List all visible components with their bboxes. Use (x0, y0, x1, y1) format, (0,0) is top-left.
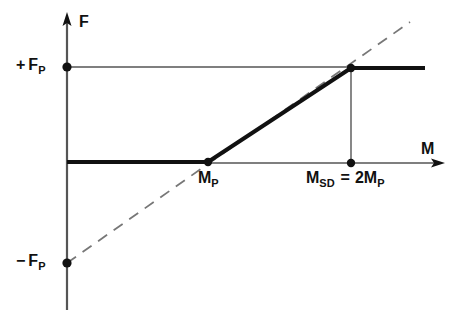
tick-label-mp: MP (198, 170, 219, 186)
msd-symbol2: M (364, 169, 377, 186)
figure-canvas: F M +FP −FP MP MSD=2MP (0, 0, 467, 321)
minus-sign: − (16, 252, 25, 269)
tick-label-positive-fp: +FP (16, 57, 45, 73)
plus-sign: + (16, 56, 25, 73)
msd-subscript: SD (319, 177, 334, 189)
bilinear-response-curve (67, 68, 425, 162)
fp-subscript: P (38, 64, 45, 76)
msd-subscript2: P (377, 177, 384, 189)
msd-symbol: M (306, 169, 319, 186)
m-axis-label: M (421, 141, 434, 157)
msd-coefficient: 2 (355, 169, 364, 186)
tick-label-msd: MSD=2MP (306, 170, 385, 186)
dot-plus-fp (62, 62, 71, 71)
dot-msd-axis (347, 159, 355, 167)
mp-symbol: M (198, 169, 211, 186)
fp-subscript-neg: P (38, 260, 45, 272)
dot-minus-fp (62, 258, 71, 267)
fp-symbol-neg: F (28, 252, 38, 269)
fp-symbol: F (28, 56, 38, 73)
equals-sign: = (341, 169, 350, 186)
tick-label-negative-fp: −FP (16, 253, 45, 269)
diagram-svg (0, 0, 467, 321)
f-axis-label: F (79, 14, 89, 30)
dot-mp (204, 158, 212, 166)
dot-msd-top (347, 64, 355, 72)
mp-subscript: P (211, 177, 218, 189)
